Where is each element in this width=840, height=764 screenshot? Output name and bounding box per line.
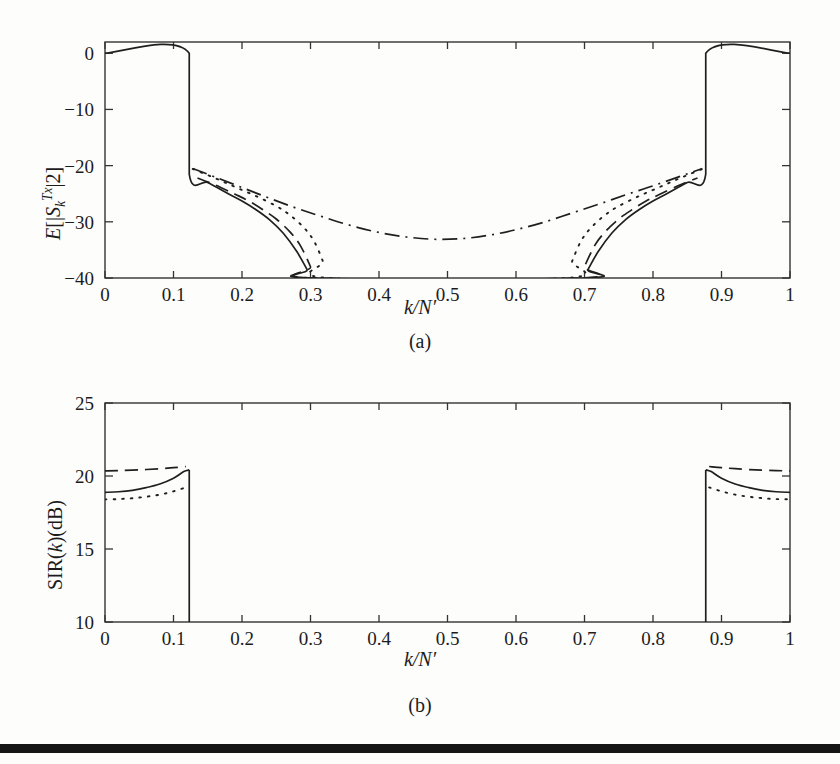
series-dotted	[193, 169, 703, 280]
ylabel-b-db: )(dB)	[44, 500, 66, 543]
ylabel-a-close: |2]	[42, 167, 64, 188]
xlabel-b-n: N	[418, 648, 431, 670]
x-tick-label: 0.4	[367, 628, 391, 649]
page-edge-bar	[0, 744, 840, 753]
x-tick-label: 0.5	[436, 628, 460, 649]
y-tick-label: 10	[75, 612, 94, 633]
y-tick-label: −40	[64, 268, 94, 289]
panel-b-x-axis-label: k/N′	[0, 648, 840, 671]
y-tick-label: 20	[75, 466, 94, 487]
ylabel-a-sub: k	[53, 201, 68, 207]
series-dotted-right	[709, 487, 790, 499]
x-tick-label: 0.7	[573, 628, 597, 649]
ylabel-a-sup: Tx	[40, 187, 55, 201]
panel-a: 00.10.20.30.40.50.60.70.80.910−10−20−30−…	[0, 0, 840, 370]
series-solid	[105, 470, 189, 492]
ylabel-b-sir: SIR(	[44, 552, 66, 590]
panel-b-y-axis-label: SIR(k)(dB)	[44, 500, 67, 590]
xlabel-a-prime: ′	[432, 296, 436, 318]
series-dashed	[105, 467, 186, 471]
xlabel-b-prime: ′	[432, 648, 436, 670]
plot-frame	[105, 42, 790, 278]
series-dash-dot	[193, 168, 703, 239]
y-tick-label: 15	[75, 539, 94, 560]
ylabel-b-k: k	[44, 543, 66, 552]
x-tick-label: 1	[785, 628, 795, 649]
panel-a-x-axis-label: k/N′	[0, 296, 840, 319]
figure-root: 00.10.20.30.40.50.60.70.80.910−10−20−30−…	[0, 0, 840, 764]
y-tick-label: −10	[64, 99, 94, 120]
ylabel-a-open: [|	[42, 217, 64, 228]
y-tick-label: −30	[64, 212, 94, 233]
series-dashed-right	[709, 467, 790, 471]
x-tick-label: 0.8	[641, 628, 665, 649]
x-tick-label: 0.3	[299, 628, 323, 649]
series-dotted	[105, 487, 186, 499]
series-dashed	[197, 178, 697, 279]
y-tick-label: 25	[75, 393, 94, 414]
x-tick-label: 0.1	[162, 628, 186, 649]
x-tick-label: 0.9	[710, 628, 734, 649]
plot-frame	[105, 403, 790, 622]
xlabel-b-k: k	[404, 648, 413, 670]
ylabel-a-s: S	[42, 207, 64, 217]
ylabel-a-e: E	[42, 228, 64, 240]
x-tick-label: 0.2	[230, 628, 254, 649]
series-solid-right	[706, 470, 790, 492]
x-tick-label: 0.6	[504, 628, 528, 649]
xlabel-a-k: k	[404, 296, 413, 318]
panel-b-caption: (b)	[0, 694, 840, 717]
xlabel-a-n: N	[418, 296, 431, 318]
panel-a-y-axis-label: E[|SkTx|2]	[40, 167, 69, 240]
y-tick-label: −20	[64, 156, 94, 177]
panel-a-caption: (a)	[0, 330, 840, 353]
x-tick-label: 0	[100, 628, 110, 649]
series-solid	[105, 44, 790, 279]
y-tick-label: 0	[85, 43, 95, 64]
